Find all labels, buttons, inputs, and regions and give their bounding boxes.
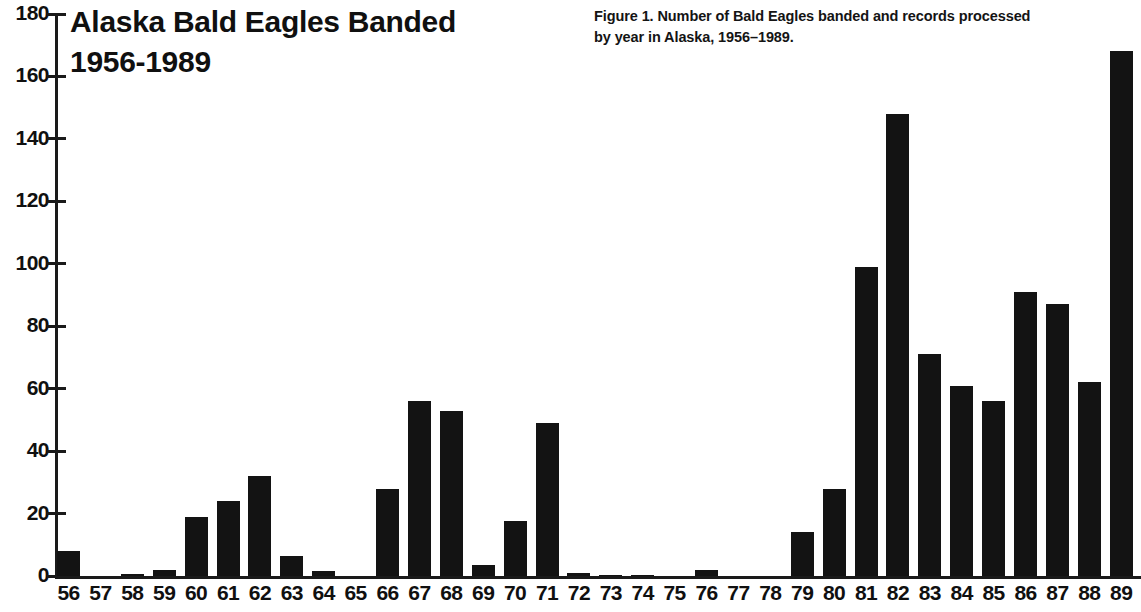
bar-66 xyxy=(376,489,399,576)
bar-87 xyxy=(1046,304,1069,576)
bar-70 xyxy=(504,521,527,576)
x-axis-tick-label-56: 56 xyxy=(51,581,86,605)
y-axis-tick-label: 60 xyxy=(3,376,49,400)
bar-83 xyxy=(918,354,941,576)
bar-56 xyxy=(57,551,80,576)
x-axis-tick-label-84: 84 xyxy=(944,581,979,605)
y-axis-tick-label: 80 xyxy=(3,313,49,337)
x-axis-tick-label-70: 70 xyxy=(498,581,533,605)
bar-84 xyxy=(950,386,973,576)
x-axis-line xyxy=(55,576,1141,579)
bar-58 xyxy=(121,574,144,576)
y-axis-tick-label: 40 xyxy=(3,438,49,462)
bar-60 xyxy=(185,517,208,576)
x-axis-tick-label-75: 75 xyxy=(657,581,692,605)
x-axis-tick-label-62: 62 xyxy=(242,581,277,605)
x-axis-tick-label-76: 76 xyxy=(689,581,724,605)
bar-74 xyxy=(631,575,654,576)
bar-79 xyxy=(791,532,814,576)
y-axis-tick-label: 20 xyxy=(3,501,49,525)
x-axis-tick-label-69: 69 xyxy=(466,581,501,605)
bar-62 xyxy=(248,476,271,576)
x-axis-tick-label-78: 78 xyxy=(753,581,788,605)
bar-69 xyxy=(472,565,495,576)
x-axis-tick-label-80: 80 xyxy=(817,581,852,605)
bar-88 xyxy=(1078,382,1101,576)
bar-series xyxy=(55,14,1141,576)
x-axis-tick-label-82: 82 xyxy=(880,581,915,605)
bar-76 xyxy=(695,570,718,576)
x-axis-labels: 5657585960616263646566676869707172737475… xyxy=(55,581,1141,612)
x-axis-tick-label-71: 71 xyxy=(530,581,565,605)
x-axis-tick-label-60: 60 xyxy=(179,581,214,605)
x-axis-tick-label-88: 88 xyxy=(1072,581,1107,605)
x-axis-tick-label-81: 81 xyxy=(849,581,884,605)
x-axis-tick-label-89: 89 xyxy=(1104,581,1139,605)
x-axis-tick-label-72: 72 xyxy=(561,581,596,605)
bar-63 xyxy=(280,556,303,576)
x-axis-tick-label-67: 67 xyxy=(402,581,437,605)
bar-72 xyxy=(567,573,590,576)
x-axis-tick-label-79: 79 xyxy=(785,581,820,605)
x-axis-tick-label-77: 77 xyxy=(721,581,756,605)
x-axis-tick-label-63: 63 xyxy=(274,581,309,605)
bar-86 xyxy=(1014,292,1037,576)
bar-59 xyxy=(153,570,176,576)
y-axis-tick-label: 0 xyxy=(3,563,49,587)
x-axis-tick-label-86: 86 xyxy=(1008,581,1043,605)
x-axis-tick-label-87: 87 xyxy=(1040,581,1075,605)
x-axis-tick-label-58: 58 xyxy=(115,581,150,605)
x-axis-tick-label-73: 73 xyxy=(593,581,628,605)
bar-68 xyxy=(440,411,463,576)
bar-71 xyxy=(536,423,559,576)
y-axis-tick-label: 140 xyxy=(3,126,49,150)
bar-64 xyxy=(312,571,335,576)
bar-67 xyxy=(408,401,431,576)
bar-89 xyxy=(1110,51,1133,576)
y-axis-tick-label: 180 xyxy=(3,1,49,25)
x-axis-tick-label-66: 66 xyxy=(370,581,405,605)
y-axis-labels: 020406080100120140160180 xyxy=(0,14,49,579)
bar-82 xyxy=(886,114,909,576)
bar-85 xyxy=(982,401,1005,576)
plot-area xyxy=(55,14,1141,579)
x-axis-tick-label-65: 65 xyxy=(338,581,373,605)
bar-81 xyxy=(855,267,878,576)
x-axis-tick-label-83: 83 xyxy=(912,581,947,605)
x-axis-tick-label-64: 64 xyxy=(306,581,341,605)
figure-container: Alaska Bald Eagles Banded 1956-1989 Figu… xyxy=(0,0,1141,612)
y-axis-tick-label: 100 xyxy=(3,251,49,275)
x-axis-tick-label-85: 85 xyxy=(976,581,1011,605)
bar-80 xyxy=(823,489,846,576)
x-axis-tick-label-68: 68 xyxy=(434,581,469,605)
x-axis-tick-label-74: 74 xyxy=(625,581,660,605)
y-axis-tick-label: 120 xyxy=(3,188,49,212)
bar-61 xyxy=(217,501,240,576)
x-axis-tick-label-61: 61 xyxy=(211,581,246,605)
x-axis-tick-label-59: 59 xyxy=(147,581,182,605)
x-axis-tick-label-57: 57 xyxy=(83,581,118,605)
bar-73 xyxy=(599,575,622,576)
y-axis-tick-label: 160 xyxy=(3,63,49,87)
